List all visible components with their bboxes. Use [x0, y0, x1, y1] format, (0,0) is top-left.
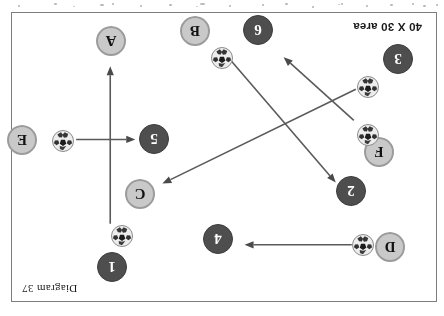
arrow-shaft: [290, 63, 353, 120]
player-marker-b: B: [180, 16, 210, 46]
player-marker-2: 2: [336, 176, 366, 206]
soccer-ball-icon: [52, 130, 74, 152]
player-marker-6: 6: [243, 15, 273, 45]
arrow-3-to-C: [162, 89, 355, 183]
soccer-ball-icon: [211, 47, 233, 69]
soccer-ball-icon: [352, 234, 374, 256]
player-marker-e: E: [7, 125, 37, 155]
player-marker-a: A: [96, 26, 126, 56]
soccer-ball-icon: [357, 124, 379, 146]
arrow-f-to-open: [284, 57, 354, 120]
player-marker-label: 5: [150, 132, 158, 147]
diagram-canvas: 14D2CF5E3A6B Diagram 37 40 X 30 area: [12, 13, 436, 301]
player-marker-c: C: [125, 179, 155, 209]
speckle-dot: [285, 3, 288, 5]
player-marker-label: C: [135, 187, 146, 202]
speckle-dot: [366, 5, 368, 7]
speckle-dot: [140, 5, 142, 7]
player-marker-5: 5: [139, 124, 169, 154]
speckle-dot: [262, 4, 264, 6]
player-marker-d: D: [375, 232, 405, 262]
speckle-dot: [169, 4, 172, 6]
soccer-ball-icon: [111, 225, 133, 247]
arrow-d-to-4: [245, 241, 352, 248]
player-marker-1: 1: [97, 252, 127, 282]
player-marker-label: D: [385, 240, 396, 255]
player-marker-label: B: [190, 24, 200, 39]
arrow-head: [107, 66, 114, 75]
arrow-1-to-A: [107, 66, 114, 224]
player-marker-3: 3: [383, 44, 413, 74]
arrow-head: [245, 241, 254, 248]
arrow-head: [162, 176, 172, 183]
player-marker-label: 1: [108, 260, 116, 275]
speckle-dot: [341, 3, 343, 5]
speckle-dot: [436, 4, 438, 6]
arrow-e-to-5: [76, 136, 135, 143]
soccer-ball-icon: [357, 76, 379, 98]
player-marker-label: 6: [254, 23, 262, 38]
diagram-frame: 14D2CF5E3A6B Diagram 37 40 X 30 area: [11, 12, 437, 302]
arrow-shaft: [170, 89, 355, 179]
speckle-dot: [200, 3, 205, 5]
scan-speckle: [0, 0, 444, 12]
speckle-dot: [18, 5, 20, 7]
arrow-shaft: [232, 61, 330, 176]
arrow-head: [126, 136, 135, 143]
area-label: 40 X 30 area: [353, 21, 422, 33]
diagram-caption: Diagram 37: [22, 283, 77, 295]
player-marker-label: E: [17, 133, 27, 148]
player-marker-label: 2: [347, 184, 355, 199]
player-marker-label: F: [374, 145, 383, 160]
speckle-dot: [229, 5, 231, 7]
speckle-dot: [54, 3, 57, 5]
speckle-dot: [112, 3, 114, 5]
speckle-dot: [312, 6, 314, 8]
speckle-dot: [100, 4, 104, 6]
speckle-dot: [423, 5, 426, 7]
speckle-dot: [390, 4, 393, 6]
speckle-dot: [412, 3, 414, 5]
player-marker-label: 4: [214, 232, 222, 247]
speckle-dot: [338, 4, 340, 5]
speckle-dot: [196, 6, 198, 7]
player-marker-4: 4: [203, 224, 233, 254]
arrow-b-to-2: [232, 61, 336, 182]
speckle-dot: [73, 6, 75, 7]
player-marker-label: 3: [394, 52, 402, 67]
player-marker-label: A: [106, 34, 117, 49]
